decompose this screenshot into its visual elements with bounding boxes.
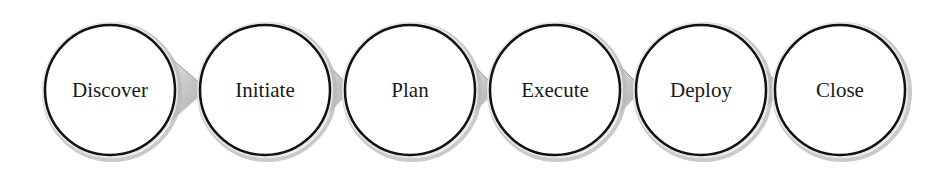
step-label: Deploy (670, 78, 732, 102)
step-label: Execute (521, 78, 589, 102)
step-discover: Discover (43, 23, 208, 160)
step-label: Plan (391, 78, 429, 102)
step-label: Initiate (235, 78, 294, 102)
step-execute: Execute (488, 23, 644, 160)
step-label: Discover (72, 78, 148, 102)
step-initiate: Initiate (198, 23, 353, 160)
step-deploy: Deploy (634, 23, 783, 160)
process-flow-diagram: DiscoverInitiatePlanExecuteDeployClose (0, 0, 951, 178)
step-close: Close (773, 23, 910, 160)
step-label: Close (816, 78, 864, 102)
step-plan: Plan (343, 23, 498, 160)
